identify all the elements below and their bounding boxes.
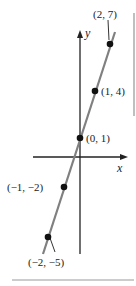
leader-line <box>50 238 55 252</box>
point-neg1-neg2 <box>61 184 68 191</box>
point-2-7 <box>107 41 114 48</box>
line-graph: y x (2, 7) (1, 4) (0, 1) (−1, −2) (−2, −… <box>0 0 136 286</box>
label-2-7: (2, 7) <box>93 8 117 21</box>
label-neg1-neg2: (−1, −2) <box>7 181 44 194</box>
y-axis-arrow-icon <box>77 30 83 38</box>
point-1-4 <box>92 88 99 95</box>
leader-line <box>108 20 109 40</box>
x-axis-label: x <box>116 161 123 175</box>
y-axis-label: y <box>84 26 91 40</box>
point-neg2-neg5 <box>45 234 52 241</box>
label-0-1: (0, 1) <box>86 132 110 145</box>
point-0-1 <box>77 135 84 142</box>
x-axis-arrow-icon <box>120 154 128 160</box>
label-neg2-neg5: (−2, −5) <box>28 256 65 269</box>
label-1-4: (1, 4) <box>101 85 125 98</box>
